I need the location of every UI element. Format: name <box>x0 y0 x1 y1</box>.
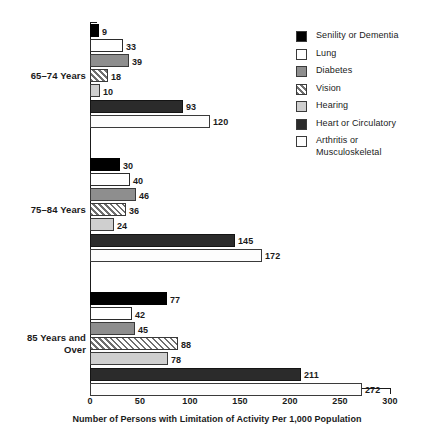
bar-value-label: 24 <box>117 221 127 231</box>
bar-chart-figure: 050100150200250300 65–74 Years75–84 Year… <box>0 0 434 440</box>
y-axis-top-cap <box>90 22 97 23</box>
legend-item[interactable]: Diabetes <box>296 65 434 83</box>
bar-value-label: 120 <box>213 117 228 127</box>
bar-value-label: 10 <box>103 87 113 97</box>
bar-value-label: 77 <box>170 295 180 305</box>
legend-swatch-diabetes-icon <box>296 66 307 77</box>
legend-label: Vision <box>316 83 434 95</box>
legend-label: Heart or Circulatory <box>316 118 434 130</box>
bar-value-label: 36 <box>129 206 139 216</box>
x-tick-label: 100 <box>182 396 198 406</box>
bar <box>90 368 301 381</box>
legend-swatch-heart-icon <box>296 119 307 130</box>
bar-value-label: 46 <box>139 191 149 201</box>
bar <box>90 203 126 216</box>
bar <box>90 292 167 305</box>
x-tick-label: 300 <box>382 396 398 406</box>
bar-value-label: 272 <box>365 385 380 395</box>
bar <box>90 173 130 186</box>
bar-value-label: 40 <box>133 176 143 186</box>
group-label-3: 85 Years and Over <box>27 332 86 356</box>
bar <box>90 54 129 67</box>
bar-value-label: 39 <box>132 57 142 67</box>
bar-value-label: 145 <box>238 236 253 246</box>
x-tick-label: 200 <box>282 396 298 406</box>
legend-item[interactable]: Arthritis or Musculoskeletal <box>296 135 434 158</box>
bar-value-label: 88 <box>181 340 191 350</box>
bar-value-label: 93 <box>186 102 196 112</box>
x-tick-label: 0 <box>87 396 92 406</box>
bar <box>90 100 183 113</box>
bar-value-label: 172 <box>265 251 280 261</box>
legend-item[interactable]: Lung <box>296 48 434 66</box>
bar <box>90 69 108 82</box>
legend-item[interactable]: Senility or Dementia <box>296 30 434 48</box>
bar-value-label: 30 <box>123 161 133 171</box>
legend-label: Arthritis or Musculoskeletal <box>316 135 434 158</box>
x-tick-label: 50 <box>135 396 145 406</box>
bar <box>90 218 114 231</box>
legend-item[interactable]: Hearing <box>296 100 434 118</box>
legend-label: Senility or Dementia <box>316 30 434 42</box>
bar <box>90 249 262 262</box>
bar <box>90 115 210 128</box>
group-label-1: 65–74 Years <box>31 70 86 82</box>
bar-value-label: 33 <box>126 42 136 52</box>
bar <box>90 188 136 201</box>
x-tick-label: 150 <box>232 396 248 406</box>
bar <box>90 24 99 37</box>
bar-value-label: 9 <box>102 27 107 37</box>
bar <box>90 383 362 396</box>
bar <box>90 307 132 320</box>
bar <box>90 234 235 247</box>
legend-item[interactable]: Vision <box>296 83 434 101</box>
legend-swatch-lung-icon <box>296 49 307 60</box>
bar-value-label: 211 <box>304 370 319 380</box>
legend-label: Hearing <box>316 100 434 112</box>
bar-value-label: 78 <box>171 355 181 365</box>
bar-value-label: 18 <box>111 72 121 82</box>
legend-swatch-vision-icon <box>296 84 307 95</box>
bar-value-label: 42 <box>135 310 145 320</box>
x-tick <box>390 389 391 394</box>
bar <box>90 322 135 335</box>
bar-value-label: 45 <box>138 325 148 335</box>
chart-legend: Senility or DementiaLungDiabetesVisionHe… <box>296 30 434 158</box>
x-axis-title: Number of Persons with Limitation of Act… <box>0 414 434 424</box>
x-tick-label: 250 <box>332 396 348 406</box>
bar <box>90 84 100 97</box>
legend-item[interactable]: Heart or Circulatory <box>296 118 434 136</box>
bar <box>90 158 120 171</box>
legend-label: Lung <box>316 48 434 60</box>
legend-swatch-hearing-icon <box>296 101 307 112</box>
bar <box>90 352 168 365</box>
legend-swatch-arthritis-icon <box>296 136 307 147</box>
bar <box>90 39 123 52</box>
legend-swatch-senility-icon <box>296 31 307 42</box>
group-label-2: 75–84 Years <box>31 204 86 216</box>
legend-label: Diabetes <box>316 65 434 77</box>
bar <box>90 337 178 350</box>
